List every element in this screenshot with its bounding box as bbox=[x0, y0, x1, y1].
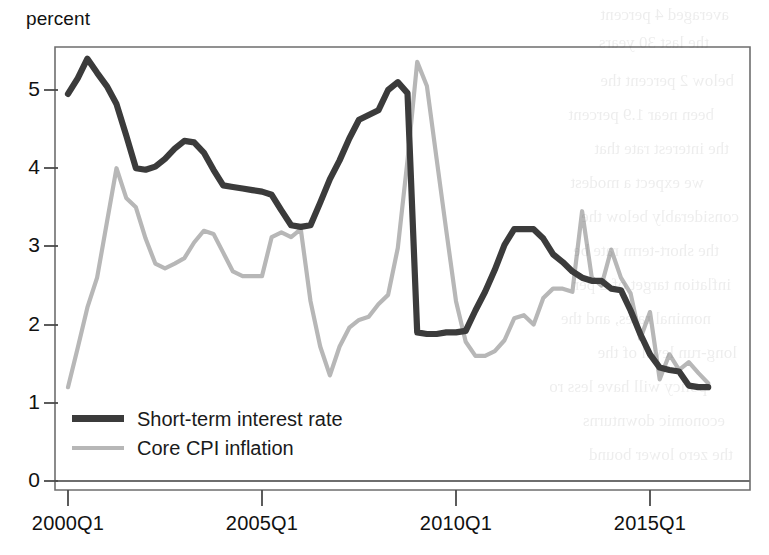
legend-label-short-term-interest-rate: Short-term interest rate bbox=[137, 409, 343, 429]
x-tick-label-2015q1: 2015Q1 bbox=[590, 512, 710, 535]
x-tick-marks bbox=[68, 490, 650, 506]
chart-figure: averaged 4 percent the last 30 years bel… bbox=[0, 0, 769, 555]
x-tick-label-2010q1: 2010Q1 bbox=[396, 512, 516, 535]
y-axis-title: percent bbox=[26, 8, 90, 30]
plot-area bbox=[0, 0, 769, 555]
y-tick-label-4: 4 bbox=[14, 155, 40, 179]
y-tick-label-1: 1 bbox=[14, 390, 40, 414]
y-tick-label-5: 5 bbox=[14, 77, 40, 101]
y-tick-marks bbox=[44, 90, 58, 481]
legend-swatch-short-term-interest-rate bbox=[72, 415, 124, 422]
y-tick-label-0: 0 bbox=[14, 468, 40, 492]
series-core-cpi-inflation bbox=[68, 62, 708, 387]
legend-item-short-term-interest-rate: Short-term interest rate bbox=[72, 404, 402, 433]
legend-item-core-cpi-inflation: Core CPI inflation bbox=[72, 433, 402, 462]
x-tick-label-2000q1: 2000Q1 bbox=[8, 512, 128, 535]
legend-label-core-cpi-inflation: Core CPI inflation bbox=[137, 438, 294, 458]
y-tick-label-3: 3 bbox=[14, 233, 40, 257]
y-tick-label-2: 2 bbox=[14, 312, 40, 336]
chart-legend: Short-term interest rate Core CPI inflat… bbox=[72, 404, 402, 462]
x-tick-label-2005q1: 2005Q1 bbox=[202, 512, 322, 535]
series-short-term-interest-rate bbox=[68, 59, 708, 387]
legend-swatch-core-cpi-inflation bbox=[72, 446, 124, 450]
